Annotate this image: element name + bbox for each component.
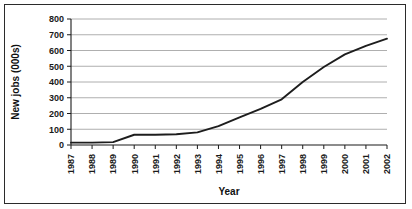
x-tick-label: 1997 [277, 154, 287, 174]
y-tick-label: 700 [49, 30, 64, 40]
y-tick-label: 400 [49, 77, 64, 87]
y-axis-title: New jobs (000s) [10, 44, 21, 120]
y-tick-label: 100 [49, 125, 64, 135]
line-chart: 0100200300400500600700800 19871988198919… [5, 5, 405, 203]
x-tick-label: 1995 [235, 154, 245, 174]
x-tick-label: 1998 [298, 154, 308, 174]
chart-frame: 0100200300400500600700800 19871988198919… [4, 4, 406, 204]
x-tick-label: 1989 [108, 154, 118, 174]
x-tick-label: 1987 [66, 154, 76, 174]
y-tick-label: 300 [49, 93, 64, 103]
gridlines-group [71, 19, 387, 129]
x-tick-label: 1992 [172, 154, 182, 174]
data-series-line [71, 39, 387, 143]
x-tick-label: 1991 [151, 154, 161, 174]
y-tick-label: 200 [49, 109, 64, 119]
y-tick-label: 500 [49, 62, 64, 72]
y-tick-label: 800 [49, 14, 64, 24]
x-axis-title: Year [218, 186, 239, 197]
x-tick-group: 1987198819891990199119921993199419951996… [66, 145, 392, 174]
x-tick-label: 1988 [87, 154, 97, 174]
y-tick-group: 0100200300400500600700800 [49, 14, 71, 150]
x-tick-label: 1996 [256, 154, 266, 174]
x-tick-label: 2000 [340, 154, 350, 174]
x-tick-label: 2001 [361, 154, 371, 174]
x-tick-label: 2002 [382, 154, 392, 174]
x-tick-label: 1994 [214, 154, 224, 174]
y-tick-label: 0 [59, 140, 64, 150]
x-tick-label: 1990 [130, 154, 140, 174]
y-tick-label: 600 [49, 46, 64, 56]
x-tick-label: 1993 [193, 154, 203, 174]
x-tick-label: 1999 [319, 154, 329, 174]
